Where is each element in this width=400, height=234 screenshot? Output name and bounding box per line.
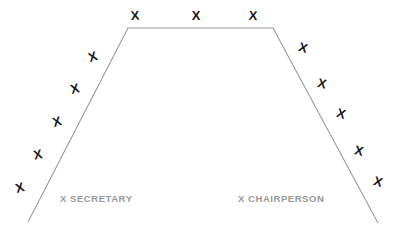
seat-mark-top-2: X bbox=[189, 9, 203, 23]
seating-diagram: XXXXXXXXXXXXX X SECRETARYX CHAIRPERSON bbox=[0, 0, 400, 234]
seat-mark-left-4: X bbox=[30, 147, 47, 164]
seat-mark-top-1: X bbox=[128, 9, 143, 24]
role-label-chairperson: X CHAIRPERSON bbox=[238, 193, 324, 204]
seat-mark-top-3: X bbox=[246, 9, 261, 24]
role-label-secretary: X SECRETARY bbox=[60, 193, 133, 204]
